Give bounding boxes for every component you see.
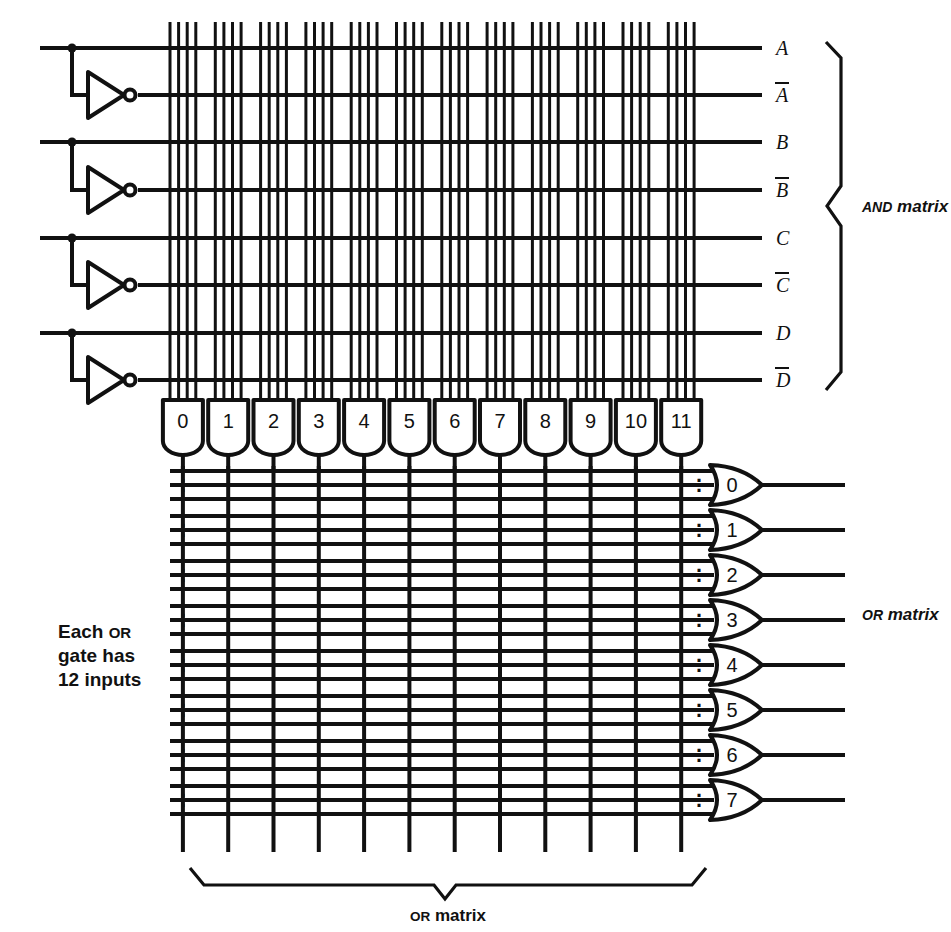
or-gate-input-note: Each OR gate has 12 inputs — [58, 621, 141, 690]
or-matrix-ellipsis-marks: ⋮⋮⋮⋮⋮⋮⋮⋮⋮⋮⋮⋮⋮⋮⋮⋮ — [175, 475, 708, 810]
or-inputs-ellipsis-icon-o0-left: ⋮ — [175, 475, 192, 495]
and-gate-row: 01234567891011 — [163, 400, 701, 470]
and-gate-label-8: 8 — [540, 410, 551, 432]
or-inputs-ellipsis-icon-o7-right: ⋮ — [691, 790, 708, 810]
and-matrix-label: AND matrix — [861, 197, 950, 216]
inverter-triangle-D — [88, 357, 124, 403]
and-gate-label-0: 0 — [177, 410, 188, 432]
or-inputs-ellipsis-icon-o3-right: ⋮ — [691, 610, 708, 630]
or-inputs-ellipsis-icon-o2-right: ⋮ — [691, 565, 708, 585]
inverter-C — [68, 234, 136, 309]
or-inputs-ellipsis-icon-o6-right: ⋮ — [691, 745, 708, 765]
or-matrix-horizontal-lines — [170, 471, 714, 814]
note-line-2: gate has — [58, 645, 135, 666]
note-line-3: 12 inputs — [58, 669, 141, 690]
or-inputs-ellipsis-icon-o7-left: ⋮ — [175, 790, 192, 810]
inverter-A — [68, 44, 136, 119]
and-matrix-signal-labels: AABBCCDD — [735, 37, 791, 391]
or-gate-label-2: 2 — [726, 564, 737, 586]
and-matrix-vertical-lines — [170, 22, 694, 400]
tap-branch-C — [72, 238, 88, 285]
and-matrix-label-rest: matrix — [892, 197, 949, 216]
signal-label-B-bar: B — [776, 179, 788, 201]
or-inputs-ellipsis-icon-o4-right: ⋮ — [691, 655, 708, 675]
and-gate-label-1: 1 — [223, 410, 234, 432]
and-gate-label-4: 4 — [359, 410, 370, 432]
and-matrix-brace-group: AND matrix — [826, 42, 950, 390]
or-matrix-label-right: OR matrix — [862, 605, 940, 624]
inverter-bubble-C — [125, 280, 136, 291]
or-gate-label-6: 6 — [726, 744, 737, 766]
inverter-D — [68, 329, 136, 404]
and-gate-label-9: 9 — [585, 410, 596, 432]
or-inputs-ellipsis-icon-o5-left: ⋮ — [175, 700, 192, 720]
or-matrix-label-bottom: OR matrix — [410, 906, 487, 925]
and-gate-label-11: 11 — [671, 410, 692, 432]
and-matrix-brace-icon — [826, 42, 841, 390]
and-gate-label-7: 7 — [494, 410, 505, 432]
tap-branch-B — [72, 142, 88, 190]
signal-label-B: B — [776, 131, 788, 153]
or-gate-column: 01234567 — [710, 465, 845, 820]
and-gate-label-5: 5 — [404, 410, 415, 432]
or-gate-label-1: 1 — [726, 519, 737, 541]
or-right-rest: matrix — [883, 605, 940, 624]
input-inverter-block — [68, 44, 136, 404]
or-bottom-lead: OR — [410, 909, 431, 924]
or-inputs-ellipsis-icon-o5-right: ⋮ — [691, 700, 708, 720]
or-matrix-bottom-brace-group: OR matrix — [190, 868, 706, 925]
and-gate-label-2: 2 — [268, 410, 279, 432]
or-inputs-ellipsis-icon-o6-left: ⋮ — [175, 745, 192, 765]
inverter-bubble-D — [125, 375, 136, 386]
signal-label-D-bar: D — [775, 369, 791, 391]
or-gate-label-4: 4 — [726, 654, 737, 676]
or-inputs-ellipsis-icon-o1-right: ⋮ — [691, 520, 708, 540]
inverter-bubble-B — [125, 185, 136, 196]
note-line1-lead: Each — [58, 621, 109, 642]
or-right-lead: OR — [862, 607, 884, 623]
and-gate-label-10: 10 — [625, 410, 647, 432]
and-gate-label-3: 3 — [313, 410, 324, 432]
or-inputs-ellipsis-icon-o0-right: ⋮ — [691, 475, 708, 495]
signal-label-D: D — [775, 322, 791, 344]
or-bottom-rest: matrix — [430, 906, 486, 925]
or-gate-label-3: 3 — [726, 609, 737, 631]
or-gate-label-5: 5 — [726, 699, 737, 721]
and-gate-label-6: 6 — [449, 410, 460, 432]
or-inputs-ellipsis-icon-o4-left: ⋮ — [175, 655, 192, 675]
or-inputs-ellipsis-icon-o2-left: ⋮ — [175, 565, 192, 585]
inverter-triangle-B — [88, 167, 124, 213]
tap-branch-D — [72, 333, 88, 380]
inverter-triangle-C — [88, 262, 124, 308]
note-line-1: Each OR — [58, 621, 131, 642]
signal-label-A: A — [774, 37, 789, 59]
or-inputs-ellipsis-icon-o3-left: ⋮ — [175, 610, 192, 630]
inverter-triangle-A — [88, 72, 124, 118]
pla-diagram-canvas: 01234567891011 01234567 ⋮⋮⋮⋮⋮⋮⋮⋮⋮⋮⋮⋮⋮⋮⋮⋮… — [0, 0, 951, 932]
inverter-B — [68, 138, 136, 214]
or-matrix-vertical-lines — [183, 466, 681, 852]
signal-label-C-bar: C — [776, 274, 790, 296]
or-matrix-brace-icon — [190, 868, 706, 899]
and-matrix-label-lead: AND — [861, 199, 892, 215]
tap-branch-A — [72, 48, 88, 95]
or-gate-label-7: 7 — [726, 789, 737, 811]
signal-label-A-bar: A — [774, 84, 789, 106]
note-line1-sc: OR — [109, 624, 132, 641]
inverter-bubble-A — [125, 90, 136, 101]
pla-diagram-svg: 01234567891011 01234567 ⋮⋮⋮⋮⋮⋮⋮⋮⋮⋮⋮⋮⋮⋮⋮⋮… — [0, 0, 951, 932]
or-inputs-ellipsis-icon-o1-left: ⋮ — [175, 520, 192, 540]
or-gate-label-0: 0 — [726, 474, 737, 496]
signal-label-C: C — [776, 227, 790, 249]
